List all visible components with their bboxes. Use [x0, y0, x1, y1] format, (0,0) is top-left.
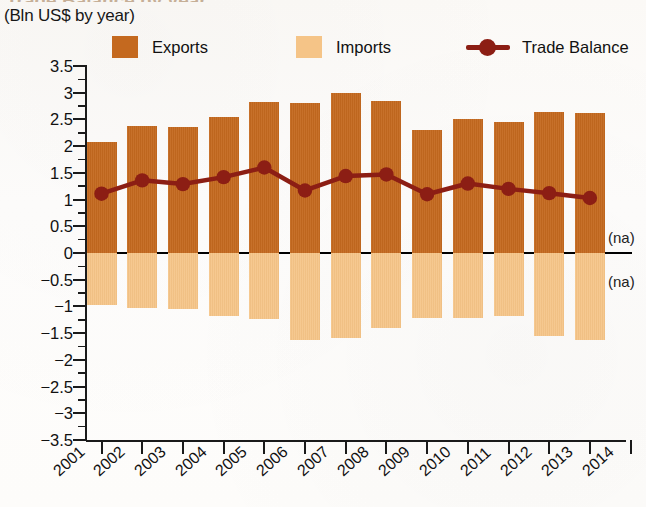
na-label-above: (na) [608, 229, 635, 246]
trade-balance-data-point [461, 176, 475, 190]
trade-balance-data-point [176, 177, 190, 191]
na-label-below: (na) [608, 273, 635, 290]
trade-balance-data-point [420, 187, 434, 201]
trade-balance-data-point [583, 191, 597, 205]
trade-balance-data-point [94, 186, 108, 200]
trade-balance-data-point [501, 182, 515, 196]
trade-balance-data-point [216, 170, 230, 184]
trade-balance-data-point [135, 173, 149, 187]
trade-balance-data-point [257, 160, 271, 174]
trade-balance-line-series [0, 0, 646, 507]
trade-balance-data-point [542, 186, 556, 200]
trade-balance-data-point [379, 167, 393, 181]
trade-balance-data-point [298, 183, 312, 197]
plot-area: 3.532.521.510.50−0.5−1−1.5−2−2.5−3−3.5 2… [0, 0, 646, 507]
trade-balance-data-point [339, 169, 353, 183]
